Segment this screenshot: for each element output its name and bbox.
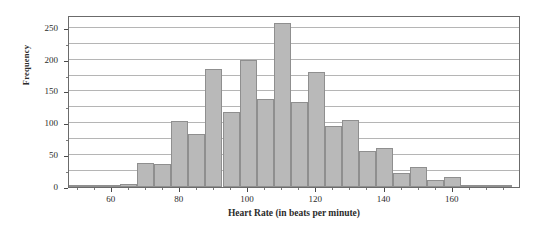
histogram-bar (478, 185, 495, 187)
x-axis-minor-tick (418, 188, 419, 190)
plot-area (68, 16, 520, 188)
y-axis-tick-label: 250 (32, 24, 58, 33)
x-axis-tick (315, 188, 316, 192)
x-axis-tick-label: 100 (227, 194, 267, 204)
histogram-bar (291, 102, 308, 187)
y-axis-tick-label: 50 (32, 151, 58, 160)
histogram-bar (461, 185, 478, 187)
histogram-bar (137, 163, 154, 187)
x-axis-tick-label: 140 (364, 194, 404, 204)
y-axis-tick-label: 0 (32, 183, 58, 192)
histogram-bar (427, 180, 444, 187)
y-axis-minor-tick (66, 172, 68, 173)
histogram-bar (325, 126, 342, 187)
y-axis-minor-tick (66, 108, 68, 109)
histogram-bar (86, 185, 103, 187)
x-axis-minor-tick (332, 188, 333, 190)
x-axis-minor-tick (196, 188, 197, 190)
x-axis-minor-tick (435, 188, 436, 190)
histogram-bar (342, 120, 359, 187)
x-axis-minor-tick (213, 188, 214, 190)
x-axis-minor-tick (486, 188, 487, 190)
y-axis-tick (64, 124, 68, 125)
x-axis-tick (452, 188, 453, 192)
x-axis-tick-label: 80 (159, 194, 199, 204)
histogram-bar (188, 134, 205, 187)
x-axis-tick (247, 188, 248, 192)
x-axis-minor-tick (298, 188, 299, 190)
x-axis-title: Heart Rate (in beats per minute) (68, 208, 520, 218)
histogram-bar (308, 72, 325, 187)
histogram-bar (205, 69, 222, 187)
histogram-bar (120, 184, 137, 187)
gridline (69, 75, 519, 76)
histogram-bar (223, 112, 240, 187)
gridline (69, 43, 519, 44)
histogram-bar (393, 173, 410, 187)
y-axis-minor-tick (66, 140, 68, 141)
histogram-bar (154, 164, 171, 187)
y-axis-tick (64, 156, 68, 157)
x-axis-minor-tick (77, 188, 78, 190)
histogram-bar (359, 151, 376, 187)
x-axis-tick (111, 188, 112, 192)
histogram-bar (171, 121, 188, 187)
x-axis-minor-tick (145, 188, 146, 190)
x-axis-minor-tick (366, 188, 367, 190)
x-axis-minor-tick (128, 188, 129, 190)
x-axis-minor-tick (230, 188, 231, 190)
x-axis-minor-tick (503, 188, 504, 190)
y-axis-tick (64, 29, 68, 30)
y-axis-minor-tick (66, 45, 68, 46)
x-axis-minor-tick (94, 188, 95, 190)
histogram-bar (257, 99, 274, 187)
histogram-bar (376, 148, 393, 187)
y-axis-tick (64, 188, 68, 189)
histogram-bar (444, 177, 461, 187)
histogram-bar (240, 60, 257, 187)
gridline (69, 59, 519, 60)
y-axis-tick (64, 92, 68, 93)
y-axis-tick-label: 100 (32, 119, 58, 128)
x-axis-tick-label: 60 (91, 194, 131, 204)
histogram-bar (103, 185, 120, 187)
y-axis-tick-label: 200 (32, 56, 58, 65)
y-axis-minor-tick (66, 77, 68, 78)
histogram-bar (274, 23, 291, 187)
y-axis-tick-labels: 050100150200250 (28, 0, 58, 234)
y-axis-tick-label: 150 (32, 87, 58, 96)
x-axis-tick (179, 188, 180, 192)
histogram-bar (410, 167, 427, 187)
histogram-bar (495, 185, 512, 187)
x-axis-minor-tick (264, 188, 265, 190)
histogram-figure: Frequency 050100150200250 60801001201401… (0, 0, 543, 234)
histogram-bar (69, 185, 86, 187)
x-axis-tick-label: 160 (432, 194, 472, 204)
x-axis-minor-tick (349, 188, 350, 190)
x-axis-minor-tick (401, 188, 402, 190)
x-axis-minor-tick (469, 188, 470, 190)
x-axis-tick (384, 188, 385, 192)
y-axis-tick (64, 61, 68, 62)
gridline (69, 27, 519, 28)
gridline (69, 90, 519, 91)
x-axis-minor-tick (162, 188, 163, 190)
x-axis-tick-label: 120 (295, 194, 335, 204)
x-axis-minor-tick (281, 188, 282, 190)
